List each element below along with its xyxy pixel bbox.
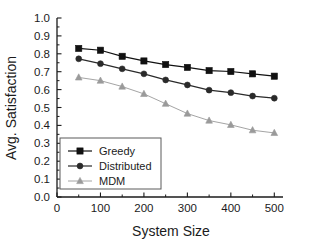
y-axis-title: Avg. Satisfaction	[3, 56, 19, 160]
x-tick-label: 0	[54, 202, 60, 214]
x-axis-title: System Size	[132, 223, 210, 239]
y-axis-tick-labels: 0.00.10.20.30.40.50.60.70.80.91.0	[34, 12, 51, 203]
x-tick-label: 100	[91, 202, 110, 214]
legend-label-mdm: MDM	[99, 175, 125, 187]
data-point-square-marker	[271, 73, 277, 79]
data-point-triangle-marker	[184, 110, 191, 116]
data-point-circle-marker	[228, 90, 234, 96]
data-point-circle-marker	[119, 66, 125, 72]
y-tick-label: 0.7	[34, 66, 50, 78]
chart-figure: 0.00.10.20.30.40.50.60.70.80.91.0 010020…	[0, 0, 315, 244]
data-point-circle-marker	[141, 71, 147, 77]
data-point-circle-marker	[250, 93, 256, 99]
data-point-square-marker	[163, 61, 169, 67]
series-mdm	[75, 74, 277, 136]
y-tick-label: 1.0	[34, 12, 50, 24]
data-point-square-marker	[77, 148, 83, 154]
series-line-greedy	[79, 48, 275, 76]
data-point-square-marker	[76, 45, 82, 51]
chart-legend: GreedyDistributedMDM	[60, 138, 161, 189]
data-point-triangle-marker	[162, 100, 169, 106]
x-tick-label: 300	[178, 202, 197, 214]
data-point-circle-marker	[206, 87, 212, 93]
y-tick-label: 0.4	[34, 119, 51, 131]
data-point-square-marker	[228, 68, 234, 74]
data-point-circle-marker	[98, 61, 104, 67]
series-line-mdm	[79, 77, 275, 132]
y-tick-label: 0.0	[34, 191, 50, 203]
legend-label-distributed: Distributed	[99, 160, 152, 172]
data-point-square-marker	[184, 64, 190, 70]
data-point-circle-marker	[271, 95, 277, 101]
data-point-circle-marker	[76, 56, 82, 62]
data-series-group	[75, 45, 277, 135]
y-tick-label: 0.8	[34, 48, 50, 60]
data-point-square-marker	[97, 47, 103, 53]
y-tick-label: 0.9	[34, 30, 50, 42]
legend-label-greedy: Greedy	[99, 145, 136, 157]
y-tick-label: 0.5	[34, 102, 50, 114]
x-tick-label: 200	[134, 202, 153, 214]
data-point-square-marker	[249, 71, 255, 77]
y-tick-label: 0.6	[34, 84, 50, 96]
series-distributed	[76, 56, 277, 101]
x-tick-label: 500	[265, 202, 284, 214]
y-tick-label: 0.1	[34, 173, 50, 185]
data-point-square-marker	[119, 53, 125, 59]
series-greedy	[76, 45, 278, 79]
y-tick-label: 0.3	[34, 137, 50, 149]
x-tick-label: 400	[221, 202, 240, 214]
data-point-circle-marker	[77, 163, 83, 169]
y-tick-label: 0.2	[34, 155, 50, 167]
x-axis-tick-labels: 0100200300400500	[54, 202, 284, 214]
data-point-circle-marker	[184, 82, 190, 88]
data-point-triangle-marker	[75, 74, 82, 80]
data-point-square-marker	[206, 68, 212, 74]
line-chart: 0.00.10.20.30.40.50.60.70.80.91.0 010020…	[0, 0, 315, 244]
series-line-distributed	[79, 59, 275, 98]
data-point-square-marker	[141, 58, 147, 64]
data-point-circle-marker	[163, 77, 169, 83]
